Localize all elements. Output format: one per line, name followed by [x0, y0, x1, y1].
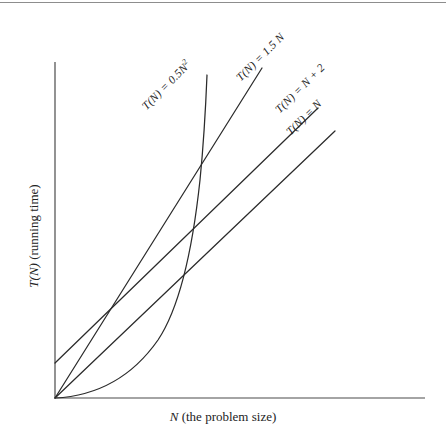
curve-linear-1-5n — [55, 68, 262, 398]
plot-canvas — [0, 0, 446, 435]
y-axis-label: T(N) (running time) — [26, 136, 42, 336]
x-axis-label: N (the problem size) — [0, 409, 446, 425]
curve-linear-n-plus-2 — [55, 108, 318, 363]
figure-container: T(N) = 0.5N2 T(N) = 1.5 N T(N) = N + 2 T… — [0, 0, 446, 435]
curve-quadratic — [55, 75, 207, 398]
curve-linear-n — [55, 131, 335, 398]
